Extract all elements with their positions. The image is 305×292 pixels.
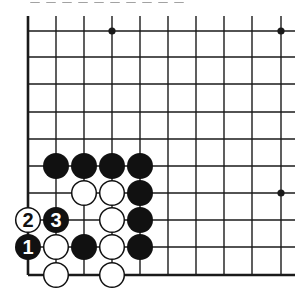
black-stone-icon bbox=[71, 153, 97, 179]
white-stone-icon bbox=[100, 235, 125, 260]
white-stone-icon bbox=[100, 181, 125, 206]
star-point-icon bbox=[277, 189, 284, 196]
star-point-icon bbox=[277, 27, 284, 34]
stone-black-move-1: 1 bbox=[15, 234, 41, 260]
stone-white bbox=[44, 235, 69, 260]
star-point-icon bbox=[108, 27, 115, 34]
grid-lines bbox=[28, 16, 295, 275]
go-board: 231 bbox=[0, 0, 305, 292]
stone-white bbox=[100, 263, 125, 288]
black-stone-icon bbox=[127, 153, 153, 179]
white-stone-icon bbox=[44, 263, 69, 288]
stone-black bbox=[43, 153, 69, 179]
white-stone-icon bbox=[44, 235, 69, 260]
stone-white bbox=[100, 235, 125, 260]
stone-white bbox=[72, 181, 97, 206]
stone-black bbox=[71, 234, 97, 260]
white-stone-icon bbox=[100, 263, 125, 288]
white-stone-icon bbox=[72, 181, 97, 206]
stone-white bbox=[44, 263, 69, 288]
stone-white-move-2: 2 bbox=[16, 208, 41, 233]
stone-black bbox=[99, 153, 125, 179]
move-number-label: 1 bbox=[22, 236, 33, 258]
stone-black bbox=[127, 153, 153, 179]
move-number-label: 3 bbox=[50, 209, 61, 231]
stone-black bbox=[127, 234, 153, 260]
stone-black bbox=[127, 207, 153, 233]
move-number-label: 2 bbox=[22, 209, 33, 231]
black-stone-icon bbox=[43, 153, 69, 179]
stone-black bbox=[71, 153, 97, 179]
black-stone-icon bbox=[127, 207, 153, 233]
stone-white bbox=[100, 208, 125, 233]
black-stone-icon bbox=[71, 234, 97, 260]
white-stone-icon bbox=[100, 208, 125, 233]
black-stone-icon bbox=[127, 180, 153, 206]
stone-black-move-3: 3 bbox=[43, 207, 69, 233]
black-stone-icon bbox=[99, 153, 125, 179]
stone-white bbox=[100, 181, 125, 206]
stone-black bbox=[127, 180, 153, 206]
black-stone-icon bbox=[127, 234, 153, 260]
